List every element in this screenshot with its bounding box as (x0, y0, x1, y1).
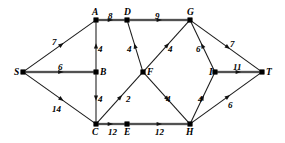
arrowhead-F-D (134, 43, 138, 49)
node-label-I: I (209, 68, 213, 78)
node-I[interactable] (213, 70, 217, 74)
edge-weight-C-E: 12 (108, 128, 117, 137)
node-T[interactable] (260, 70, 264, 74)
edge-S-C (25, 73, 94, 122)
node-F[interactable] (141, 70, 145, 74)
edge-C-F (98, 74, 142, 123)
edge-weight-B-A: 4 (98, 45, 103, 54)
edge-F-G (145, 22, 189, 71)
node-A[interactable] (94, 18, 98, 22)
edge-weight-B-C: 4 (98, 95, 103, 104)
node-label-S: S (14, 68, 19, 78)
edge-weight-F-D: 4 (127, 45, 132, 54)
edge-C-E (98, 122, 124, 126)
edge-weight-D-G: 9 (155, 12, 160, 21)
edge-weight-S-B: 6 (58, 63, 63, 72)
node-C[interactable] (94, 122, 98, 126)
node-B[interactable] (94, 70, 98, 74)
arrowhead-C-E (108, 122, 113, 126)
node-label-G: G (187, 8, 194, 18)
arrowhead-S-A (58, 43, 64, 48)
edge-weight-F-H: 4 (166, 95, 171, 104)
node-label-F: F (147, 68, 153, 78)
edge-weight-F-G: 4 (168, 45, 173, 54)
arrowhead-S-C (58, 96, 64, 101)
node-D[interactable] (125, 18, 129, 22)
edge-weight-H-I: 4 (198, 95, 203, 104)
edge-weight-G-T: 7 (230, 40, 235, 49)
node-label-H: H (186, 128, 193, 138)
graph-canvas (0, 0, 285, 143)
node-S[interactable] (21, 70, 25, 74)
edge-weight-E-H: 12 (155, 128, 164, 137)
node-label-D: D (124, 8, 131, 18)
arrowhead-E-H (157, 122, 162, 126)
node-label-C: C (92, 128, 98, 138)
node-label-A: A (92, 8, 98, 18)
edge-weight-A-D: 8 (108, 12, 113, 21)
edge-weight-C-F: 2 (126, 95, 131, 104)
node-label-E: E (124, 128, 130, 138)
edge-weight-H-T: 6 (228, 101, 233, 110)
node-E[interactable] (125, 122, 129, 126)
edge-weight-S-C: 14 (52, 105, 61, 114)
arrowhead-I-G (201, 43, 205, 49)
node-G[interactable] (188, 18, 192, 22)
node-label-T: T (266, 68, 272, 78)
node-label-B: B (100, 68, 106, 78)
edge-E-H (129, 122, 187, 126)
node-H[interactable] (188, 122, 192, 126)
graph-figure: 7614894442121244647116SADGBFITCEH (0, 0, 285, 143)
edge-weight-I-T: 11 (233, 63, 242, 72)
edge-weight-I-G: 6 (196, 45, 201, 54)
edge-weight-S-A: 7 (52, 38, 57, 47)
